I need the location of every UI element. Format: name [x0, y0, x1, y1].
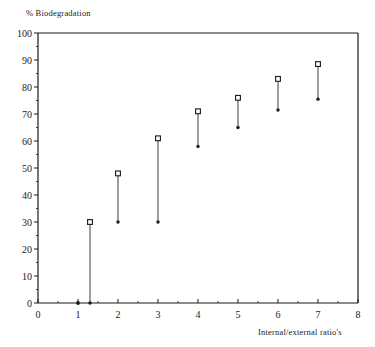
axis-ticks	[34, 33, 358, 303]
data-series	[76, 62, 320, 305]
plot-area	[0, 0, 375, 347]
axis-frame	[38, 33, 358, 303]
chart-container: % Biodegradation Internal/external ratio…	[0, 0, 375, 347]
